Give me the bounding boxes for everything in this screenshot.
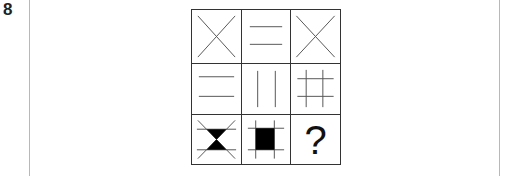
diagonal-cross-icon: [291, 10, 340, 63]
question-mark: ?: [291, 115, 340, 164]
cell-r2-c3: [291, 64, 340, 115]
cell-r2-c2: [242, 64, 291, 115]
cell-r3-c3: ?: [291, 115, 340, 164]
cell-r3-c2: [242, 115, 291, 164]
filled-square-icon: [242, 115, 290, 164]
horizontal-lines-icon: [242, 10, 290, 63]
cell-r1-c3: [291, 10, 340, 64]
diagonal-cross-icon: [192, 10, 241, 63]
figure-matrix: ?: [191, 9, 341, 165]
hourglass-icon: [192, 115, 241, 164]
cell-r1-c2: [242, 10, 291, 64]
question-number: 8: [3, 0, 12, 20]
horizontal-lines-icon: [192, 64, 241, 114]
cell-r2-c1: [192, 64, 242, 115]
cell-r3-c1: [192, 115, 242, 164]
vertical-lines-icon: [242, 64, 290, 114]
hash-grid-icon: [291, 64, 340, 114]
cell-r1-c1: [192, 10, 242, 64]
